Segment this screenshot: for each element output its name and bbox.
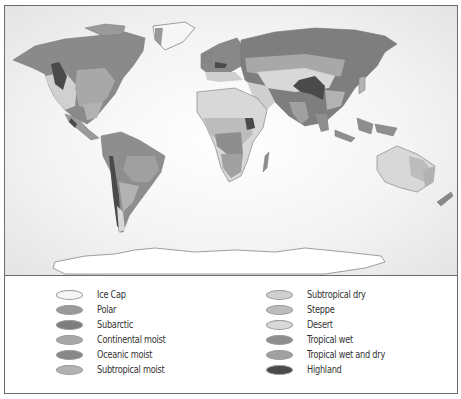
legend-item-highland: Highland bbox=[266, 362, 402, 377]
polar-swatch-icon bbox=[56, 305, 83, 315]
legend-item-ice-cap: Ice Cap bbox=[56, 287, 181, 302]
legend-item-tropical-wet: Tropical wet bbox=[266, 332, 402, 347]
legend-item-polar: Polar bbox=[56, 302, 181, 317]
desert-swatch-icon bbox=[266, 320, 293, 330]
legend-item-tropical-wet-and-dry: Tropical wet and dry bbox=[266, 347, 402, 362]
arctic-islands bbox=[85, 24, 125, 36]
legend-label: Tropical wet bbox=[307, 334, 353, 345]
north-america bbox=[13, 32, 145, 140]
south-america bbox=[101, 132, 165, 232]
europe bbox=[201, 38, 245, 82]
legend-label: Highland bbox=[307, 364, 342, 375]
subtropical-moist-swatch-icon bbox=[56, 365, 83, 375]
southeast-asia-islands bbox=[335, 118, 397, 142]
antarctica bbox=[53, 248, 385, 274]
legend-label: Desert bbox=[307, 319, 333, 330]
legend-label: Subarctic bbox=[97, 319, 133, 330]
ice-cap-swatch-icon bbox=[56, 290, 83, 300]
legend-label: Subtropical dry bbox=[307, 289, 366, 300]
tropical-wet-and-dry-swatch-icon bbox=[266, 350, 293, 360]
legend-label: Polar bbox=[97, 304, 116, 315]
legend-item-desert: Desert bbox=[266, 317, 402, 332]
legend-label: Ice Cap bbox=[97, 289, 126, 300]
new-zealand bbox=[437, 192, 453, 206]
legend-item-subtropical-moist: Subtropical moist bbox=[56, 362, 181, 377]
map-frame: Ice Cap Polar Subarctic Continental mois… bbox=[4, 5, 458, 394]
highland-swatch-icon bbox=[266, 365, 293, 375]
legend-label: Continental moist bbox=[97, 334, 166, 345]
legend-item-subtropical-dry: Subtropical dry bbox=[266, 287, 402, 302]
legend: Ice Cap Polar Subarctic Continental mois… bbox=[5, 276, 457, 393]
subarctic-swatch-icon bbox=[56, 320, 83, 330]
legend-item-oceanic-moist: Oceanic moist bbox=[56, 347, 181, 362]
steppe-swatch-icon bbox=[266, 305, 293, 315]
continental-moist-swatch-icon bbox=[56, 335, 83, 345]
legend-column-left: Ice Cap Polar Subarctic Continental mois… bbox=[56, 287, 181, 377]
tropical-wet-swatch-icon bbox=[266, 335, 293, 345]
australia bbox=[377, 146, 435, 192]
legend-label: Oceanic moist bbox=[97, 349, 152, 360]
madagascar bbox=[263, 152, 269, 172]
oceanic-moist-swatch-icon bbox=[56, 350, 83, 360]
africa bbox=[197, 88, 267, 182]
subtropical-dry-swatch-icon bbox=[266, 290, 293, 300]
world-climate-map bbox=[5, 6, 457, 276]
world-map-graphic bbox=[5, 6, 457, 275]
legend-label: Tropical wet and dry bbox=[307, 349, 385, 360]
legend-label: Steppe bbox=[307, 304, 334, 315]
legend-label: Subtropical moist bbox=[97, 364, 165, 375]
legend-item-subarctic: Subarctic bbox=[56, 317, 181, 332]
legend-column-right: Subtropical dry Steppe Desert Tropical w… bbox=[266, 287, 402, 377]
japan bbox=[359, 76, 365, 94]
legend-item-steppe: Steppe bbox=[266, 302, 402, 317]
legend-item-continental-moist: Continental moist bbox=[56, 332, 181, 347]
